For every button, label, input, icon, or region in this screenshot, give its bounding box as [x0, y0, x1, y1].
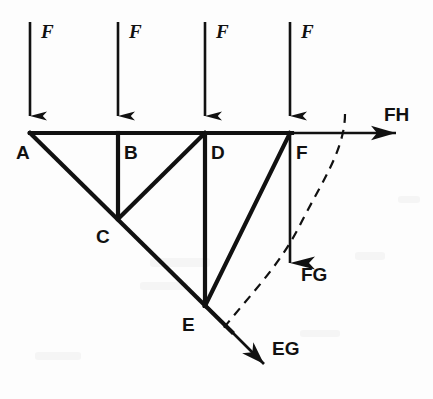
internal-force-labels: FH FG EG	[272, 104, 409, 359]
load-label-at-D: F	[215, 21, 229, 42]
node-labels: A B C D E F	[16, 142, 308, 335]
node-label-E: E	[182, 314, 195, 335]
applied-loads	[30, 22, 290, 116]
truss-diagram-canvas: A B C D E F F F F F FH FG EG	[0, 0, 433, 399]
node-label-D: D	[211, 142, 225, 163]
node-label-A: A	[16, 142, 30, 163]
load-label-at-A: F	[40, 21, 54, 42]
node-label-F: F	[296, 142, 308, 163]
force-label-FH: FH	[384, 104, 409, 125]
load-labels: F F F F	[40, 21, 314, 42]
truss-members	[30, 133, 292, 332]
node-label-C: C	[96, 226, 110, 247]
node-label-B: B	[124, 142, 138, 163]
load-label-at-F: F	[300, 21, 314, 42]
force-label-FG: FG	[301, 264, 327, 285]
truss-diagram: A B C D E F F F F F FH FG EG	[0, 0, 433, 399]
scan-artifacts	[35, 196, 420, 360]
load-label-at-B: F	[128, 21, 142, 42]
force-label-EG: EG	[272, 338, 299, 359]
